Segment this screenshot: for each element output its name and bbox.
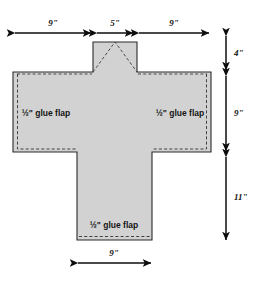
net-outline-shape: [13, 42, 211, 240]
box-net-diagram: 9" 5" 9" 4" 9" 11" 9" ½" glue flap ½" gl…: [0, 0, 257, 289]
diagram-canvas: 9" 5" 9" 4" 9" 11" 9" ½" glue flap ½" gl…: [0, 0, 257, 289]
dimension-label-right-lower: 11": [234, 192, 248, 202]
glue-flap-label-right: ½" glue flap: [156, 108, 204, 118]
dimension-label-bottom-center: 9": [109, 248, 119, 258]
glue-flap-label-bottom: ½" glue flap: [90, 220, 138, 230]
dimension-label-top-left: 9": [48, 18, 58, 28]
dimension-label-top-center: 5": [110, 18, 120, 28]
right-dimension-group: 4" 9" 11": [226, 36, 248, 240]
top-dimension-group: 9" 5" 9": [15, 18, 209, 33]
glue-flap-label-left: ½" glue flap: [22, 108, 70, 118]
dimension-label-top-right: 9": [169, 18, 179, 28]
dimension-label-right-upper: 4": [233, 48, 244, 58]
dimension-label-right-middle: 9": [234, 108, 244, 118]
bottom-dimension-group: 9": [78, 248, 151, 263]
